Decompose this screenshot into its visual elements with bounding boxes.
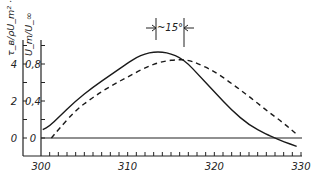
y-tick-label-left: 4 [11, 59, 17, 70]
arrow-left-icon [184, 25, 194, 31]
x-tick-label: 330 [291, 161, 310, 172]
annotation: ~15° [146, 18, 194, 47]
dashed-curve [51, 60, 296, 138]
y-tick-label-left: 0 [11, 133, 17, 144]
y-tick-label-inner: 0 [30, 133, 36, 144]
y-tick-label-inner: 0,4 [25, 96, 41, 107]
y-tick-label-left: 2 [11, 96, 17, 107]
annotation-label: ~15° [157, 22, 183, 33]
x-tick-label: 300 [31, 161, 50, 172]
solid-curve [43, 52, 297, 146]
axes [23, 40, 302, 156]
y-axis-label-left: τ_в/ρU_m² · 10³ [5, 0, 16, 56]
arrow-right-icon [146, 25, 156, 31]
x-tick-label: 310 [118, 161, 137, 172]
y-tick-label-inner: 0,8 [25, 59, 41, 70]
series [43, 52, 297, 146]
chart: 30031032033002400,40,8τ_в/ρU_m² · 10³U_m… [0, 0, 314, 174]
x-tick-label: 320 [205, 161, 224, 172]
y-axis-label-inner: U_m/U_∞ [23, 12, 34, 56]
